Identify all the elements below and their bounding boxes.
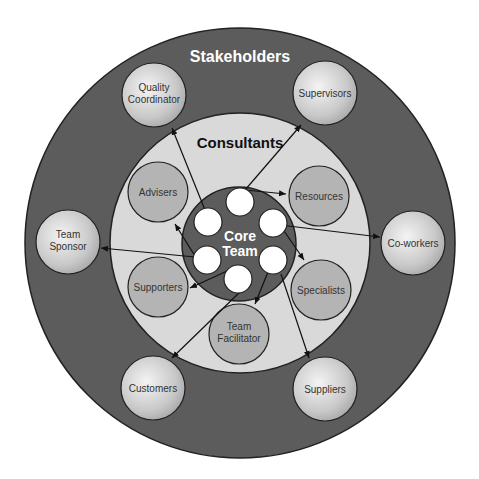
stakeholder-co-workers: Co-workers: [381, 211, 445, 275]
core-team-label-line1: Core: [224, 228, 256, 244]
svg-text:Sponsor: Sponsor: [49, 241, 87, 252]
team-structure-diagram: Stakeholders Consultants Advisers Resour…: [0, 0, 479, 479]
svg-text:Customers: Customers: [129, 383, 177, 394]
svg-text:Specialists: Specialists: [297, 285, 345, 296]
consultant-resources: Resources: [289, 166, 349, 226]
stakeholder-supervisors: Supervisors: [293, 61, 357, 125]
stakeholder-customers: Customers: [121, 356, 185, 420]
svg-text:Suppliers: Suppliers: [304, 384, 346, 395]
svg-text:Advisers: Advisers: [139, 187, 177, 198]
consultant-advisers: Advisers: [128, 162, 188, 222]
svg-text:Facilitator: Facilitator: [217, 333, 261, 344]
core-member-3: [259, 209, 287, 237]
consultant-supporters: Supporters: [128, 257, 188, 317]
core-member-4: [193, 246, 221, 274]
stakeholder-quality-coordinator: Quality Coordinator: [122, 63, 186, 127]
svg-text:Supporters: Supporters: [134, 282, 183, 293]
core-team-label-line2: Team: [222, 243, 258, 259]
consultants-title: Consultants: [197, 134, 284, 151]
svg-text:Team: Team: [227, 321, 251, 332]
stakeholder-suppliers: Suppliers: [293, 357, 357, 421]
stakeholder-team-sponsor: Team Sponsor: [36, 210, 100, 274]
svg-text:Resources: Resources: [295, 191, 343, 202]
core-member-6: [224, 265, 252, 293]
core-member-5: [259, 246, 287, 274]
stakeholders-title: Stakeholders: [190, 48, 291, 65]
svg-text:Supervisors: Supervisors: [299, 88, 352, 99]
core-member-2: [194, 208, 222, 236]
consultant-specialists: Specialists: [291, 260, 351, 320]
svg-text:Team: Team: [56, 229, 80, 240]
core-member-1: [226, 188, 254, 216]
svg-text:Co-workers: Co-workers: [387, 238, 438, 249]
svg-text:Quality: Quality: [138, 82, 169, 93]
svg-text:Coordinator: Coordinator: [128, 94, 181, 105]
